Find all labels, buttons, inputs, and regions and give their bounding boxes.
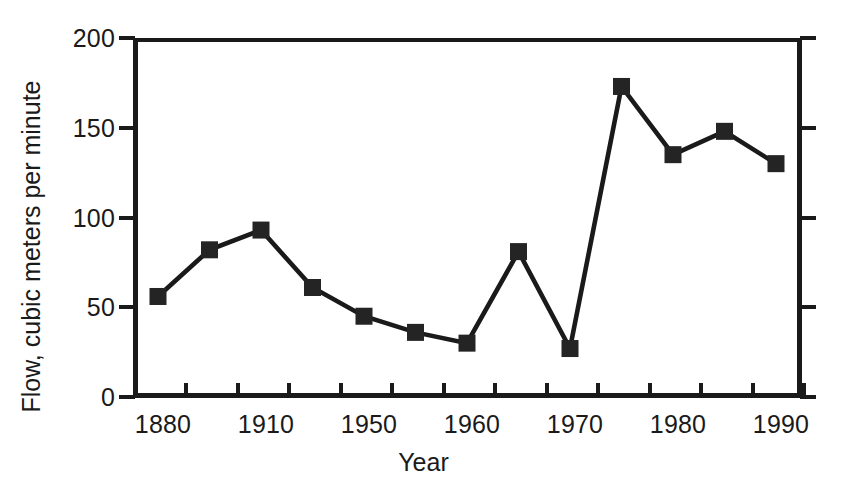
plot-area: 050100150200 188019101950196019701980199… [133,38,802,397]
y-tick-mark-right [800,216,816,220]
data-point-marker [562,340,579,357]
y-tick-label: 100 [73,203,115,232]
series-line-flow [158,86,776,348]
x-tick-label: 1960 [444,410,500,439]
data-point-marker [150,288,167,305]
y-tick-label: 0 [101,383,115,412]
x-axis-title-text: Year [398,448,449,476]
x-tick-label: 1990 [753,410,809,439]
y-axis-title-text: Flow, cubic meters per minute [17,80,46,412]
y-tick-label: 200 [73,24,115,53]
data-point-marker [253,222,270,239]
x-tick-label: 1950 [341,410,397,439]
data-point-marker [665,146,682,163]
data-point-marker [304,279,321,296]
data-point-marker [510,243,527,260]
y-tick-label: 50 [87,293,115,322]
data-point-marker [407,324,424,341]
data-point-marker [459,335,476,352]
series-markers-flow [150,78,785,357]
series-plot [133,38,802,397]
y-tick-mark-right [800,126,816,130]
x-tick-mark [802,383,806,397]
data-point-marker [716,123,733,140]
y-tick-mark-right [800,305,816,309]
x-tick-label: 1970 [547,410,603,439]
chart-figure: Flow, cubic meters per minute 0501001502… [0,0,847,492]
y-axis-title: Flow, cubic meters per minute [14,0,48,492]
x-tick-label: 1910 [238,410,294,439]
data-point-marker [201,241,218,258]
data-point-marker [613,78,630,95]
y-tick-mark-right [800,36,816,40]
y-tick-label: 150 [73,113,115,142]
data-point-marker [356,308,373,325]
x-axis-title: Year [0,448,847,477]
data-point-marker [768,155,785,172]
x-tick-label: 1880 [135,410,191,439]
x-tick-label: 1980 [650,410,706,439]
